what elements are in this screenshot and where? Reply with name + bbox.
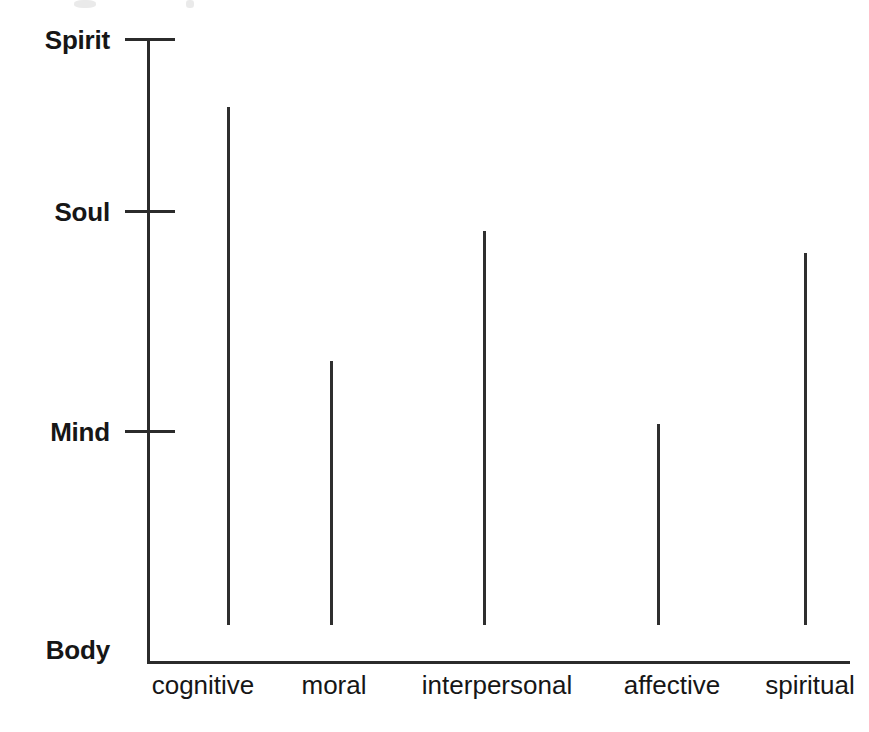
y-axis-label-soul: Soul <box>0 199 110 225</box>
x-axis-label-interpersonal: interpersonal <box>422 672 572 698</box>
page-scan-artifact <box>74 0 96 8</box>
y-axis-label-spirit: Spirit <box>0 27 110 53</box>
y-axis-line <box>147 38 150 664</box>
bar-moral <box>330 361 333 625</box>
bar-affective <box>657 424 660 625</box>
x-axis-label-moral: moral <box>301 672 366 698</box>
bar-interpersonal <box>483 231 486 625</box>
x-axis-label-spiritual: spiritual <box>765 672 855 698</box>
y-axis-label-body: Body <box>0 637 110 663</box>
y-axis-label-mind: Mind <box>0 419 110 445</box>
y-axis-tick-spirit <box>125 38 175 41</box>
bar-cognitive <box>227 107 230 625</box>
bar-spiritual <box>804 253 807 625</box>
y-axis-tick-soul <box>125 210 175 213</box>
page-scan-artifact <box>186 0 194 8</box>
x-axis-label-affective: affective <box>624 672 720 698</box>
x-axis-label-cognitive: cognitive <box>152 672 255 698</box>
y-axis-tick-mind <box>125 430 175 433</box>
x-axis-line <box>147 661 850 664</box>
chart-figure: Spirit Soul Mind Body cognitive moral in… <box>0 0 869 732</box>
